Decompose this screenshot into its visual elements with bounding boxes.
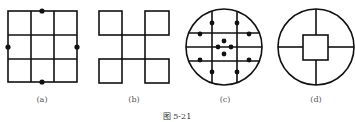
panel-d-label: (d) bbox=[296, 95, 336, 104]
panel-c-label: (c) bbox=[205, 95, 245, 104]
panel-a-label: (a) bbox=[22, 95, 62, 104]
panel-d-circle bbox=[278, 9, 354, 85]
panel-a-dots bbox=[5, 8, 79, 84]
panel-a-grid bbox=[8, 11, 77, 82]
panel-b-squares bbox=[99, 11, 169, 83]
panel-b-label: (b) bbox=[114, 95, 154, 104]
figure-caption: 图 5-21 bbox=[137, 110, 217, 121]
panel-c-circle bbox=[186, 9, 262, 85]
